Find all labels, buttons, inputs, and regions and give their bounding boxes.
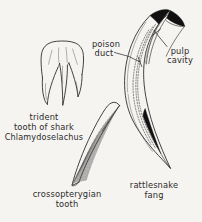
- crossopterygian-caption-line1: crossopterygian: [33, 189, 102, 199]
- tooth-comparison-figure: poison duct pulp cavity trident tooth of…: [0, 0, 202, 222]
- pulp-cavity-label-line2: cavity: [167, 55, 193, 65]
- rattlesnake-caption-line1: rattlesnake: [130, 180, 178, 190]
- poison-duct-label-line2: duct: [95, 48, 115, 58]
- trident-caption-line2: tooth of shark: [14, 122, 74, 132]
- trident-caption-line1: trident: [30, 112, 59, 122]
- illustration-canvas: poison duct pulp cavity trident tooth of…: [0, 0, 202, 222]
- trident-caption-line3: Chlamydoselachus: [5, 132, 83, 142]
- crossopterygian-caption-line2: tooth: [56, 199, 79, 209]
- rattlesnake-caption-line2: fang: [144, 190, 163, 200]
